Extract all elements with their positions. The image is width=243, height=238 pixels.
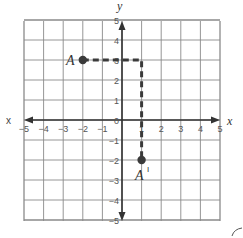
- x-tick-label: −1: [97, 124, 107, 134]
- x-axis-arrow-right-icon: [211, 117, 220, 124]
- x-tick-label: −2: [78, 124, 88, 134]
- x-axis-label-right: x: [226, 114, 233, 128]
- coordinate-grid: −5−4−3−2−112345543210−1−2−3−4−5 x x y A …: [0, 0, 243, 238]
- x-tick-label: 2: [159, 124, 164, 134]
- point-a-prime: [137, 156, 145, 164]
- corner-mark: [232, 228, 242, 236]
- y-axis-label: y: [116, 0, 123, 13]
- x-tick-label: 4: [198, 124, 203, 134]
- y-tick-label: −1: [109, 136, 119, 146]
- x-axis-label-left: x: [6, 115, 11, 126]
- y-tick-label: 2: [114, 76, 119, 86]
- points: [79, 56, 146, 164]
- point-a-label: A: [65, 53, 75, 68]
- origin-label: 0: [114, 116, 119, 126]
- point-a: [79, 56, 87, 64]
- y-tick-label: −5: [109, 216, 119, 226]
- y-tick-label: 1: [114, 96, 119, 106]
- x-tick-label: 3: [178, 124, 183, 134]
- x-tick-label: −5: [19, 124, 29, 134]
- coordinate-plane-figure: −5−4−3−2−112345543210−1−2−3−4−5 x x y A …: [0, 0, 243, 238]
- x-tick-label: 5: [217, 124, 222, 134]
- y-tick-label: 5: [114, 16, 119, 26]
- y-tick-label: 4: [114, 36, 119, 46]
- x-axis-arrow-left-icon: [24, 117, 33, 124]
- y-axis-arrow-up-icon: [119, 21, 126, 30]
- axes: [24, 21, 220, 221]
- x-tick-label: −4: [38, 124, 48, 134]
- y-tick-label: −2: [109, 156, 119, 166]
- prime-mark: I: [147, 165, 149, 174]
- y-tick-label: −3: [109, 176, 119, 186]
- point-a-prime-label: A: [134, 168, 144, 183]
- x-tick-label: −3: [58, 124, 68, 134]
- y-tick-label: −4: [109, 196, 119, 206]
